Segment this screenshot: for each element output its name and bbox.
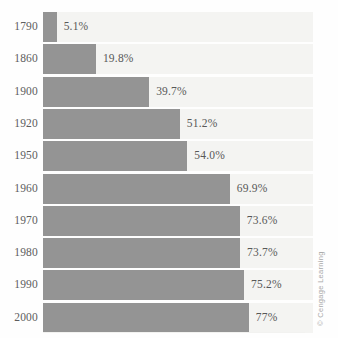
bar-track: 77% xyxy=(43,303,313,333)
bar-value-label: 73.7% xyxy=(247,247,278,259)
year-axis-label: 1970 xyxy=(0,215,38,227)
bar-fill xyxy=(43,109,180,139)
bar-value-label: 77% xyxy=(256,312,278,324)
bar-fill xyxy=(43,270,244,300)
bar-value-label: 75.2% xyxy=(251,280,282,292)
bar-chart-figure: 17905.1%186019.8%190039.7%192051.2%19505… xyxy=(0,0,338,338)
year-axis-label: 2000 xyxy=(0,312,38,324)
bar-fill xyxy=(43,206,240,236)
year-axis-label: 1790 xyxy=(0,21,38,33)
bar-fill xyxy=(43,238,240,268)
bar-track: 54.0% xyxy=(43,141,313,171)
bar-fill xyxy=(43,77,149,107)
year-axis-label: 1900 xyxy=(0,86,38,98)
copyright-credit: © Cengage Learning xyxy=(325,230,337,326)
year-axis-label: 1950 xyxy=(0,150,38,162)
year-axis-label: 1980 xyxy=(0,247,38,259)
bar-value-label: 5.1% xyxy=(64,21,89,33)
bar-track: 75.2% xyxy=(43,270,313,300)
bar-track: 5.1% xyxy=(43,12,313,42)
bar-fill xyxy=(43,141,187,171)
year-axis-label: 1990 xyxy=(0,280,38,292)
year-axis-label: 1860 xyxy=(0,54,38,66)
bar-row: 186019.8% xyxy=(0,44,320,74)
bar-fill xyxy=(43,303,249,333)
bar-fill xyxy=(43,174,230,204)
bar-track: 73.7% xyxy=(43,238,313,268)
bar-row: 195054.0% xyxy=(0,141,320,171)
bar-track: 51.2% xyxy=(43,109,313,139)
year-axis-label: 1960 xyxy=(0,183,38,195)
bar-row: 197073.6% xyxy=(0,206,320,236)
bar-row: 196069.9% xyxy=(0,174,320,204)
year-axis-label: 1920 xyxy=(0,118,38,130)
bar-track: 73.6% xyxy=(43,206,313,236)
bar-row: 17905.1% xyxy=(0,12,320,42)
bar-track: 39.7% xyxy=(43,77,313,107)
bar-row: 198073.7% xyxy=(0,238,320,268)
bar-row: 192051.2% xyxy=(0,109,320,139)
bar-value-label: 73.6% xyxy=(247,215,278,227)
bar-track: 19.8% xyxy=(43,44,313,74)
chart-plot-area: 17905.1%186019.8%190039.7%192051.2%19505… xyxy=(0,4,320,330)
bar-row: 199075.2% xyxy=(0,270,320,300)
bar-fill xyxy=(43,12,57,42)
bar-value-label: 51.2% xyxy=(187,118,218,130)
bar-fill xyxy=(43,44,96,74)
bar-track: 69.9% xyxy=(43,174,313,204)
bar-value-label: 39.7% xyxy=(156,86,187,98)
bar-value-label: 54.0% xyxy=(194,150,225,162)
bar-value-label: 69.9% xyxy=(237,183,268,195)
bar-row: 190039.7% xyxy=(0,77,320,107)
bar-value-label: 19.8% xyxy=(103,54,134,66)
credit-text: © Cengage Learning xyxy=(316,251,325,326)
bottom-divider xyxy=(43,332,305,333)
bar-row: 200077% xyxy=(0,303,320,333)
